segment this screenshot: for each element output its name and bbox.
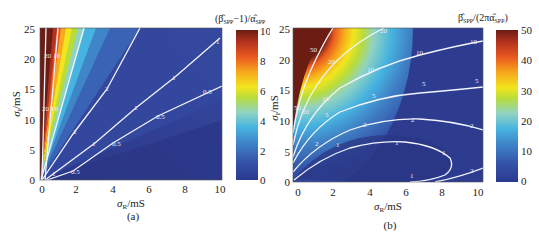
svg-text:1: 1	[410, 172, 414, 180]
svg-text:8: 8	[260, 55, 266, 67]
chart-b-svg: 50 50 20 20 20 10 10 10 10 5 5 5 5 2 2 2…	[270, 0, 539, 241]
svg-text:5: 5	[325, 111, 329, 119]
svg-text:1: 1	[172, 74, 176, 82]
svg-text:6: 6	[146, 183, 152, 195]
svg-text:10: 10	[279, 115, 291, 127]
svg-text:2: 2	[330, 186, 336, 198]
svg-text:50: 50	[294, 104, 302, 112]
svg-text:0: 0	[260, 174, 266, 186]
svg-text:0: 0	[521, 175, 527, 187]
svg-text:5: 5	[422, 80, 426, 88]
svg-text:2: 2	[470, 122, 474, 130]
svg-text:20: 20	[24, 53, 36, 65]
colorbar-a	[236, 30, 258, 180]
svg-text:10: 10	[260, 25, 270, 37]
svg-text:30: 30	[521, 85, 533, 97]
svg-text:10: 10	[215, 183, 227, 195]
svg-text:15: 15	[279, 84, 291, 96]
svg-text:20: 20	[42, 105, 50, 113]
svg-text:25: 25	[279, 23, 291, 35]
colorbar-b	[496, 30, 518, 182]
y-axis-a: 0 5 10 15 20 25	[24, 23, 36, 186]
svg-text:1: 1	[336, 141, 340, 149]
caption-b: (b)	[370, 219, 410, 231]
svg-text:40: 40	[521, 54, 533, 66]
svg-text:10: 10	[470, 38, 478, 46]
x-axis-a: 0 2 4 6 8 10	[39, 183, 226, 195]
svg-text:10: 10	[521, 145, 533, 157]
x-axis-b: 0 2 4 6 8 10	[295, 186, 484, 198]
svg-text:6: 6	[403, 186, 409, 198]
heatmap-b: 50 50 20 20 20 10 10 10 10 5 5 5 5 2 2 2…	[270, 0, 483, 198]
svg-text:2: 2	[470, 167, 474, 175]
svg-text:2: 2	[73, 183, 79, 195]
svg-text:1: 1	[52, 170, 56, 178]
colorbar-ticks-a: 0 2 4 6 8 10	[260, 25, 270, 186]
svg-text:10: 10	[51, 105, 59, 113]
colorbar-title-a: (β̂SPP−1)/α̂SPP	[215, 13, 266, 25]
svg-text:6: 6	[260, 85, 266, 97]
svg-text:5: 5	[372, 92, 376, 100]
x-axis-label-b: σR/mS	[374, 200, 402, 214]
svg-text:25: 25	[24, 23, 36, 35]
caption-a: (a)	[113, 210, 153, 222]
svg-text:20: 20	[44, 52, 52, 60]
svg-text:20: 20	[302, 108, 310, 116]
svg-text:10: 10	[367, 66, 375, 74]
svg-text:4: 4	[367, 186, 373, 198]
svg-text:0: 0	[295, 186, 301, 198]
svg-text:10: 10	[473, 186, 485, 198]
svg-text:10: 10	[416, 49, 424, 57]
svg-text:2: 2	[411, 116, 415, 124]
svg-text:5: 5	[30, 144, 36, 156]
svg-text:0: 0	[39, 183, 45, 195]
svg-text:1: 1	[216, 38, 220, 46]
y-axis-label-a: σI/mS	[10, 91, 24, 117]
y-axis-b: 0 5 10 15 20 25	[279, 23, 291, 188]
svg-text:8: 8	[439, 186, 445, 198]
svg-text:0.5: 0.5	[203, 88, 212, 96]
svg-text:20: 20	[279, 54, 291, 66]
svg-text:0.5: 0.5	[71, 168, 80, 176]
svg-text:10: 10	[24, 114, 36, 126]
svg-text:2: 2	[105, 85, 109, 93]
svg-text:0: 0	[285, 176, 291, 188]
svg-text:1: 1	[92, 140, 96, 148]
svg-text:1: 1	[442, 149, 446, 157]
svg-text:0: 0	[30, 174, 36, 186]
svg-text:4: 4	[260, 115, 266, 127]
svg-text:5: 5	[285, 146, 291, 158]
svg-text:5: 5	[475, 77, 479, 85]
svg-text:1: 1	[395, 139, 399, 147]
svg-text:2: 2	[363, 121, 367, 129]
panel-a: 20 10 20 10 2 2 1 1 1 1 1 0.5 0.5 0.5 0.…	[0, 0, 270, 241]
svg-text:20: 20	[328, 58, 336, 66]
svg-text:10: 10	[53, 52, 61, 60]
svg-text:1: 1	[134, 104, 138, 112]
svg-text:0.5: 0.5	[156, 113, 165, 121]
svg-text:50: 50	[521, 24, 533, 36]
colorbar-ticks-b: 0 10 20 30 40 50	[521, 24, 533, 187]
x-axis-label-a: σR/mS	[117, 197, 145, 211]
svg-text:20: 20	[521, 115, 533, 127]
svg-text:2: 2	[73, 128, 77, 136]
svg-text:4: 4	[110, 183, 116, 195]
svg-text:10: 10	[322, 95, 330, 103]
svg-text:2: 2	[315, 140, 319, 148]
svg-text:50: 50	[310, 46, 318, 54]
colorbar-title-b: β̂SPP/(2πα̂SPP)	[458, 12, 508, 24]
chart-a-svg: 20 10 20 10 2 2 1 1 1 1 1 0.5 0.5 0.5 0.…	[0, 0, 270, 241]
panel-b: 50 50 20 20 20 10 10 10 10 5 5 5 5 2 2 2…	[270, 0, 539, 241]
svg-text:2: 2	[260, 145, 266, 157]
svg-text:15: 15	[24, 83, 36, 95]
svg-text:8: 8	[182, 183, 188, 195]
heatmap-a: 20 10 20 10 2 2 1 1 1 1 1 0.5 0.5 0.5 0.…	[40, 28, 222, 180]
svg-text:0.5: 0.5	[112, 140, 121, 148]
